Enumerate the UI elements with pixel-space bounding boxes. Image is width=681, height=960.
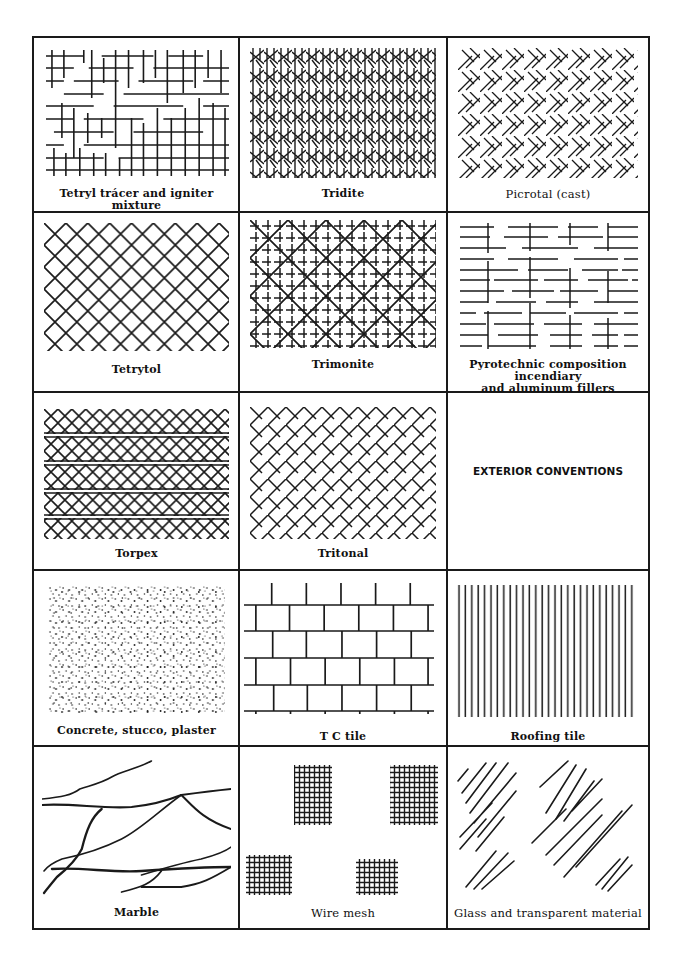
pattern-swatch xyxy=(244,583,434,715)
pattern-swatch xyxy=(250,48,436,178)
cell-label: Marble xyxy=(36,907,237,919)
cell-label-line-1: Pyrotechnic composition incendiary xyxy=(450,359,646,383)
cell-exterior-conventions: EXTERIOR CONVENTIONS xyxy=(448,393,648,570)
cell-glass-transparent: Glass and transparent material xyxy=(448,747,648,928)
cell-tetrytol: Tetrytol xyxy=(34,213,239,392)
cell-pyrotechnic-composition: Pyrotechnic composition incendiary and a… xyxy=(448,213,648,392)
cell-trimonite: Trimonite xyxy=(240,213,446,392)
cell-label: T C tile xyxy=(242,731,444,743)
cell-label: Tridite xyxy=(242,188,444,200)
cell-tritonal: Tritonal xyxy=(240,393,446,570)
cell-roofing-tile: Roofing tile xyxy=(448,571,648,746)
cell-wire-mesh: Wire mesh xyxy=(240,747,446,928)
pattern-swatch xyxy=(458,48,638,178)
cell-label: Trimonite xyxy=(242,359,444,371)
cell-label: Concrete, stucco, plaster xyxy=(36,725,237,737)
cell-tetryl-tracer: Tetryl trácer and igniter mixture xyxy=(34,38,239,212)
cell-concrete-stucco-plaster: Concrete, stucco, plaster xyxy=(34,571,239,746)
cell-picrotal-cast: Picrotal (cast) xyxy=(448,38,648,212)
cell-label: Tritonal xyxy=(242,548,444,560)
cell-label: Tetryl trácer and igniter mixture xyxy=(36,188,237,212)
pattern-swatch xyxy=(48,586,225,714)
cell-tc-tile: T C tile xyxy=(240,571,446,746)
pattern-swatch xyxy=(458,223,638,351)
cell-label: Glass and transparent material xyxy=(450,907,646,919)
cell-label: Pyrotechnic composition incendiary and a… xyxy=(450,359,646,395)
pattern-swatch xyxy=(42,759,231,895)
pattern-swatch xyxy=(456,585,634,717)
pattern-swatch xyxy=(250,407,436,539)
cell-label: Tetrytol xyxy=(36,364,237,376)
pattern-swatch xyxy=(44,409,229,539)
pattern-swatch xyxy=(456,759,638,895)
cell-tridite: Tridite xyxy=(240,38,446,212)
material-conventions-table: Tetryl trácer and igniter mixture Tridit… xyxy=(32,36,650,930)
cell-marble: Marble xyxy=(34,747,239,928)
section-heading: EXTERIOR CONVENTIONS xyxy=(448,465,648,477)
cell-label: Picrotal (cast) xyxy=(450,188,646,200)
pattern-swatch xyxy=(44,223,229,351)
cell-torpex: Torpex xyxy=(34,393,239,570)
cell-label: Wire mesh xyxy=(242,907,444,919)
pattern-swatch xyxy=(44,48,229,178)
cell-label: Roofing tile xyxy=(450,731,646,743)
pattern-swatch xyxy=(242,755,444,895)
pattern-swatch xyxy=(250,220,436,348)
cell-label: Torpex xyxy=(36,548,237,560)
